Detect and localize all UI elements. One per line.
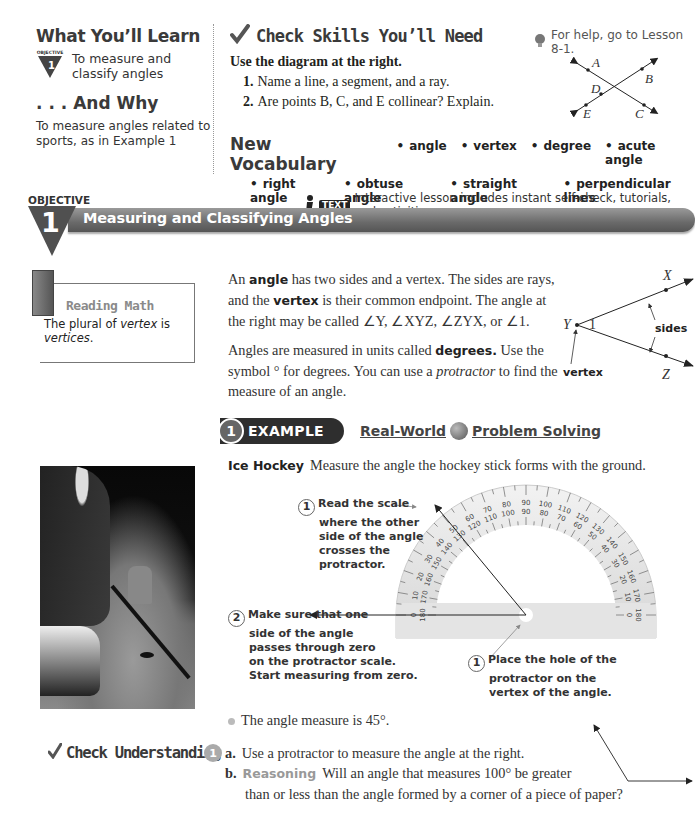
- check-understanding-number: 1: [204, 744, 222, 762]
- angle-definition: An angle has two sides and a vertex. The…: [228, 269, 558, 401]
- definition-paragraph-1: An angle has two sides and a vertex. The…: [228, 269, 558, 331]
- vocab-title: New Vocabulary: [230, 134, 381, 174]
- example-header: 1 EXAMPLE Real-World Problem Solving: [220, 418, 601, 444]
- objective-number: 1: [41, 207, 60, 238]
- skills-question-2: 2.Are points B, C, and E collinear? Expl…: [230, 94, 530, 110]
- end-bullet-icon: [228, 718, 235, 725]
- column-divider: [213, 24, 214, 174]
- check-understanding-header: Check Understanding: [48, 743, 221, 763]
- checkmark-icon: [48, 743, 62, 763]
- svg-text:180: 180: [634, 608, 642, 621]
- example-pill: 1 EXAMPLE: [220, 418, 344, 444]
- definition-paragraph-2: Angles are measured in units called degr…: [228, 340, 558, 401]
- svg-text:10: 10: [411, 590, 420, 600]
- objective-banner: 1 Measuring and Classifying Angles: [28, 208, 695, 234]
- svg-text:C: C: [635, 106, 644, 120]
- svg-text:Z: Z: [662, 367, 670, 382]
- objective-text: To measure and classify angles: [72, 49, 216, 81]
- vocab-term: angle: [397, 139, 447, 153]
- check-understanding-title: Check Understanding: [66, 744, 221, 762]
- svg-text:E: E: [582, 106, 591, 120]
- help-bulb-icon: [534, 33, 546, 52]
- reading-math-box: Reading Math The plural of vertex is ver…: [40, 283, 195, 363]
- reading-math-title: Reading Math: [66, 298, 154, 313]
- svg-text:10: 10: [623, 592, 632, 602]
- objective-badge-icon: OBJECTIVE 1: [36, 49, 64, 77]
- svg-text:A: A: [591, 55, 600, 70]
- protractor-illustration: 0180101702016030150401405013060120701108…: [228, 475, 695, 705]
- goalie-figure: [128, 566, 152, 604]
- example-answer: The angle measure is 45°.: [228, 712, 389, 729]
- svg-text:1: 1: [589, 317, 596, 332]
- skills-intro: Use the diagram at the right.: [230, 54, 530, 70]
- step-number-circle: 1: [468, 655, 485, 672]
- svg-text:B: B: [645, 71, 653, 86]
- checkmark-icon: [230, 24, 250, 48]
- objective-label: OBJECTIVE: [28, 194, 90, 206]
- svg-text:Y: Y: [563, 317, 573, 332]
- check-skills-header: Check Skills You’ll Need: [230, 24, 482, 48]
- svg-text:vertex: vertex: [563, 366, 603, 379]
- puck: [140, 652, 154, 658]
- player-figure: [40, 466, 110, 626]
- step-3: 1Read the scale where the other side of …: [298, 497, 423, 572]
- svg-text:80: 80: [501, 500, 511, 509]
- svg-text:80: 80: [539, 509, 549, 518]
- svg-text:90: 90: [522, 508, 531, 516]
- svg-text:sides: sides: [655, 322, 688, 335]
- example-prompt: Ice HockeyMeasure the angle the hockey s…: [228, 457, 646, 474]
- step-number-circle: 2: [228, 610, 245, 627]
- book-icon: [32, 270, 54, 316]
- hockey-photo: [40, 466, 195, 709]
- skills-question-1: 1.Name a line, a segment, and a ray.: [230, 74, 530, 90]
- vocab-term: vertex: [461, 139, 517, 153]
- skate: [40, 626, 100, 696]
- svg-text:X: X: [662, 268, 672, 283]
- section-title: Measuring and Classifying Angles: [83, 210, 352, 226]
- svg-text:OBJECTIVE: OBJECTIVE: [37, 50, 64, 55]
- example-label: EXAMPLE: [248, 423, 324, 439]
- vocab-term: acute angle: [605, 139, 695, 167]
- svg-text:1: 1: [48, 60, 55, 71]
- learn-title: What You’ll Learn: [36, 26, 216, 46]
- lines-diagram: A B D E C: [560, 50, 670, 124]
- reading-math-body: The plural of vertex is vertices.: [44, 317, 170, 345]
- angle-diagram: Y 1 X Z sides vertex: [555, 262, 695, 386]
- svg-text:90: 90: [522, 499, 531, 507]
- check-skills-title: Check Skills You’ll Need: [256, 26, 482, 46]
- step-number-circle: 1: [298, 499, 315, 516]
- globe-icon: [450, 422, 468, 440]
- why-text: To measure angles related to sports, as …: [36, 119, 216, 149]
- check-skills-body: Use the diagram at the right. 1.Name a l…: [230, 54, 530, 110]
- objective-item: OBJECTIVE 1 To measure and classify angl…: [36, 49, 216, 81]
- vocab-term: degree: [531, 139, 591, 153]
- example-number: 1: [218, 418, 244, 444]
- svg-text:0: 0: [625, 613, 633, 617]
- step-1: 1Place the hole of the protractor on the…: [468, 653, 617, 700]
- practice-angle-diagram: [580, 715, 695, 799]
- step-2: 2Make sure that one side of the angle pa…: [228, 608, 418, 683]
- what-youll-learn-panel: What You’ll Learn OBJECTIVE 1 To measure…: [36, 26, 216, 149]
- svg-text:D: D: [590, 81, 601, 96]
- real-world-banner: Real-World Problem Solving: [360, 422, 601, 440]
- why-title: . . . And Why: [36, 93, 216, 113]
